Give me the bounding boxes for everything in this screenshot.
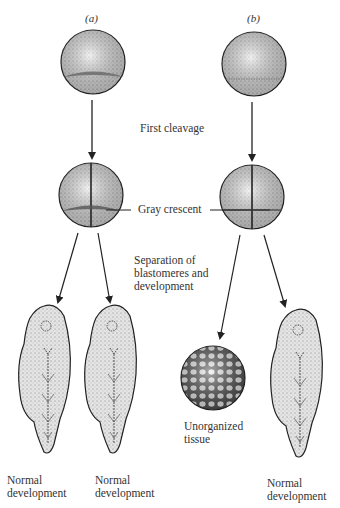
arrow-a-left: [58, 233, 78, 302]
embryo-a-left: [19, 305, 71, 453]
outcome-line-2: development: [95, 487, 154, 500]
label-unorganized-tissue: Unorganized tissue: [184, 420, 243, 446]
outcome-line-1: Normal: [267, 477, 326, 490]
outcome-line-1: Normal: [95, 474, 154, 487]
two-cell-a: [59, 163, 123, 227]
outcome-line-1: Normal: [7, 474, 66, 487]
separation-line-2: blastomeres and: [134, 267, 208, 280]
outcome-line-2: development: [7, 487, 66, 500]
panel-label-b: (b): [247, 12, 260, 24]
arrow-b-left: [220, 235, 240, 338]
outcome-a-left: Normal development: [7, 474, 66, 500]
unorganized-line-1: Unorganized: [184, 420, 243, 433]
label-separation: Separation of blastomeres and developmen…: [134, 254, 208, 293]
arrow-b-right: [264, 235, 285, 306]
embryo-b-right: [271, 309, 323, 457]
label-first-cleavage: First cleavage: [140, 122, 204, 135]
egg-a-uncleaved: [61, 30, 125, 94]
separation-line-1: Separation of: [134, 254, 208, 267]
outcome-a-right: Normal development: [95, 474, 154, 500]
unorganized-tissue-ball: [181, 346, 245, 410]
embryo-a-right: [85, 305, 137, 453]
two-cell-b: [220, 165, 284, 229]
outcome-b-right: Normal development: [267, 477, 326, 503]
separation-line-3: development: [134, 280, 208, 293]
label-gray-crescent: Gray crescent: [138, 203, 202, 216]
panel-label-a: (a): [85, 12, 98, 24]
arrow-a-right: [98, 233, 110, 302]
unorganized-line-2: tissue: [184, 433, 243, 446]
outcome-line-2: development: [267, 490, 326, 503]
egg-b-uncleaved: [222, 32, 286, 96]
